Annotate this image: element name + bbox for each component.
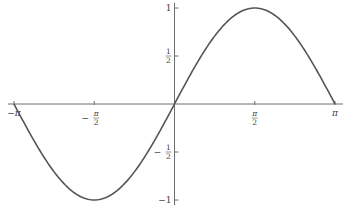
y-tick-label: 1 — [166, 3, 172, 13]
x-tick-label: −π2 — [81, 109, 99, 127]
tick-label-denominator: 2 — [94, 118, 99, 127]
tick-label-sign: − — [81, 113, 89, 123]
tick-label-numerator: π — [93, 109, 100, 118]
tick-label-numerator: 1 — [166, 143, 171, 152]
tick-label-denominator: 2 — [252, 118, 257, 127]
y-tick-label: −12 — [154, 143, 172, 161]
y-tick-label: −1 — [158, 195, 171, 205]
x-tick-label: π — [331, 108, 339, 118]
sine-chart: −π−π2π2π112−12−1 — [0, 0, 345, 209]
tick-label-sign: − — [154, 147, 162, 157]
x-tick-label: π2 — [251, 109, 258, 127]
tick-label-numerator: π — [251, 109, 258, 118]
tick-label-numerator: 1 — [166, 47, 171, 56]
y-tick-label: 12 — [166, 47, 172, 65]
tick-label-denominator: 2 — [166, 152, 171, 161]
tick-label-denominator: 2 — [166, 56, 171, 65]
